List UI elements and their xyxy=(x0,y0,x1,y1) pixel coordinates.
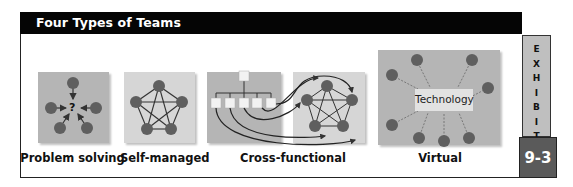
question-mark: ? xyxy=(69,101,75,114)
node xyxy=(438,135,450,147)
node xyxy=(411,54,423,66)
frame-bottom-border xyxy=(20,177,520,179)
self-managed-diagram xyxy=(124,72,195,143)
node xyxy=(386,69,398,81)
org-box xyxy=(239,71,249,81)
org-box xyxy=(211,98,221,108)
node xyxy=(153,80,165,92)
node xyxy=(54,122,66,134)
virtual-label: Virtual xyxy=(400,151,480,165)
exhibit-letter: I xyxy=(535,115,538,130)
node xyxy=(90,102,102,114)
node xyxy=(130,96,142,108)
exhibit-letter: X xyxy=(533,57,540,72)
page-title: Four Types of Teams xyxy=(36,15,181,30)
self-managed-panel xyxy=(124,72,195,143)
cross-functional-label: Cross-functional xyxy=(240,151,340,165)
node xyxy=(337,120,349,132)
exhibit-letter: H xyxy=(533,71,541,86)
node xyxy=(81,122,93,134)
technology-text: Technology xyxy=(415,93,473,105)
exhibit-letter: B xyxy=(533,100,540,115)
problem-solving-label: Problem solving xyxy=(20,151,125,165)
header-bar: Four Types of Teams xyxy=(20,12,522,34)
node xyxy=(321,80,333,92)
node xyxy=(45,102,57,114)
virtual-panel: Technology xyxy=(378,50,500,145)
node xyxy=(463,132,475,144)
exhibit-number: 9-3 xyxy=(519,137,557,178)
node xyxy=(67,77,79,89)
org-box xyxy=(252,98,262,108)
node xyxy=(346,94,358,106)
node xyxy=(466,54,478,66)
org-box xyxy=(225,98,235,108)
node xyxy=(413,132,425,144)
org-box xyxy=(266,98,276,108)
node xyxy=(176,96,188,108)
self-managed-label: Self-managed xyxy=(120,151,200,165)
node xyxy=(309,120,321,132)
cross-functional-diagram xyxy=(200,68,370,148)
problem-solving-panel: ? xyxy=(38,72,109,143)
node xyxy=(386,119,398,131)
node xyxy=(165,123,177,135)
exhibit-letter: I xyxy=(535,86,538,101)
org-box xyxy=(239,98,249,108)
node xyxy=(482,82,494,94)
node xyxy=(301,94,313,106)
exhibit-letters: E X H I B I T xyxy=(523,42,550,144)
exhibit-letter: E xyxy=(533,42,539,57)
exhibit-tab: E X H I B I T xyxy=(522,35,551,137)
node xyxy=(141,123,153,135)
